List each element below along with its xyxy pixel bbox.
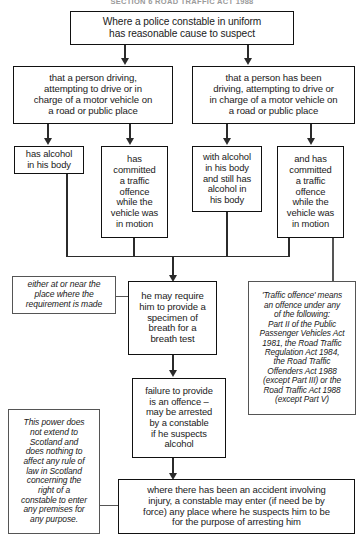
note-traffic-offence-definition-text: 'Traffic offence' means an offence under… <box>249 291 355 404</box>
arrow-to-cond3 <box>223 138 231 145</box>
node-branch-left-text: that a person driving, attempting to dri… <box>14 73 172 117</box>
node-require-breath-specimen-text: he may require him to provide a specimen… <box>129 291 216 346</box>
arrow-to-branch-left <box>121 58 129 65</box>
node-branch-right-text: that a person has been driving, attempti… <box>193 73 354 117</box>
node-accident-entry-power: where there has been an accident involvi… <box>118 479 355 534</box>
node-cond-traffic-offence-right-text: and has committed a traffic offence whil… <box>278 154 343 229</box>
connector-cond1-drop <box>66 174 67 257</box>
connector-scotland-to-accident <box>100 505 119 506</box>
node-branch-left: that a person driving, attempting to dri… <box>13 66 173 124</box>
connector-bus-to-require <box>172 256 173 277</box>
node-cond-traffic-offence-right: and has committed a traffic offence whil… <box>277 146 344 238</box>
connector-cond4-drop <box>288 238 289 257</box>
arrow-to-cond2 <box>126 138 134 145</box>
node-failure-to-provide: failure to provide is an offence – may b… <box>132 378 226 458</box>
connector-merge-bus <box>66 256 289 257</box>
node-root: Where a police constable in uniform has … <box>70 11 294 45</box>
node-root-text: Where a police constable in uniform has … <box>71 16 293 39</box>
note-either-at-or-near-text: either at or near the place where the re… <box>13 280 115 309</box>
connector-cond4-to-note <box>332 238 333 281</box>
connector-cond3-drop <box>226 212 227 257</box>
node-require-breath-specimen: he may require him to provide a specimen… <box>128 281 217 355</box>
arrow-to-cond1 <box>44 138 52 145</box>
arrow-to-cond4 <box>307 138 315 145</box>
flowchart-canvas: SECTION 6 ROAD TRAFFIC ACT 1988 Where a … <box>0 0 364 552</box>
connector-note-place-to-require <box>116 296 128 297</box>
note-traffic-offence-definition: 'Traffic offence' means an offence under… <box>248 281 356 415</box>
node-accident-entry-power-text: where there has been an accident involvi… <box>119 485 354 528</box>
connector-cond2-drop <box>133 238 134 257</box>
node-failure-to-provide-text: failure to provide is an offence – may b… <box>133 386 225 450</box>
node-branch-right: that a person has been driving, attempti… <box>192 66 355 124</box>
node-cond-has-alcohol: has alcohol in his body <box>14 146 84 174</box>
note-scotland-exclusion: This power does not extend to Scotland a… <box>8 409 100 534</box>
node-cond-traffic-offence-left-text: has committed a traffic offence while th… <box>102 154 167 229</box>
node-cond-traffic-offence-left: has committed a traffic offence while th… <box>101 146 168 238</box>
arrow-to-failure <box>169 370 177 377</box>
arrow-to-branch-right <box>244 58 252 65</box>
note-either-at-or-near: either at or near the place where the re… <box>12 276 116 314</box>
node-cond-has-alcohol-text: has alcohol in his body <box>15 149 83 170</box>
page-header-clipped: SECTION 6 ROAD TRAFFIC ACT 1988 <box>0 0 364 6</box>
node-cond-still-has-alcohol: with alcohol in his body and still has a… <box>192 146 262 212</box>
note-scotland-exclusion-text: This power does not extend to Scotland a… <box>9 418 99 525</box>
node-cond-still-has-alcohol-text: with alcohol in his body and still has a… <box>193 152 261 206</box>
